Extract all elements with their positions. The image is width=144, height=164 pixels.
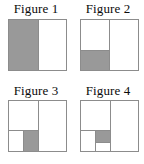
- figure-2-shaded-region: [81, 50, 109, 70]
- figure-3-shaded-region: [23, 130, 38, 151]
- figure-1-label: Figure 1: [0, 1, 72, 17]
- figure-3-cell: Figure 3: [0, 82, 72, 164]
- figure-2-horizontal-divider: [81, 50, 109, 51]
- figure-4-vertical-divider: [110, 101, 111, 151]
- figure-2-label: Figure 2: [72, 1, 144, 17]
- figure-3-inner-vertical-divider: [23, 130, 24, 151]
- figure-3-vertical-divider: [38, 101, 39, 151]
- figure-1-diagram: [8, 19, 67, 71]
- figure-3-inner: [9, 101, 66, 151]
- figure-4-cell: Figure 4: [72, 82, 144, 164]
- figure-1-shaded-region: [9, 20, 38, 70]
- figure-4-inner-vertical-divider: [95, 130, 96, 151]
- figure-1-cell: Figure 1: [0, 0, 72, 82]
- figure-4-diagram: [80, 100, 139, 152]
- figure-4-inner: [81, 101, 138, 151]
- figure-4-inner-horizontal-divider: [95, 142, 110, 143]
- figure-2-vertical-divider: [109, 20, 110, 70]
- figure-1-inner: [9, 20, 66, 70]
- figure-4-shaded-region: [95, 130, 110, 142]
- figure-1-vertical-divider: [38, 20, 39, 70]
- figures-sheet: Figure 1 Figure 2 Figure 3: [0, 0, 144, 164]
- figure-2-inner: [81, 20, 138, 70]
- figure-3-diagram: [8, 100, 67, 152]
- figure-2-diagram: [80, 19, 139, 71]
- figure-3-label: Figure 3: [0, 83, 72, 99]
- figure-2-cell: Figure 2: [72, 0, 144, 82]
- figure-4-label: Figure 4: [72, 83, 144, 99]
